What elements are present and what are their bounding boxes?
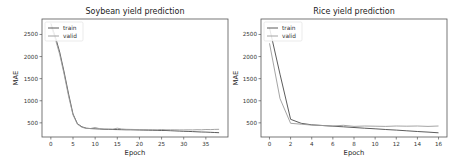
y-tick-label: 2500 (24, 31, 39, 37)
y-tick-label: 1500 (24, 76, 39, 82)
y-axis-label: MAE (12, 71, 20, 86)
x-tick-label: 4 (310, 141, 314, 147)
x-axis-label: Epoch (125, 149, 146, 157)
x-tick-label: 25 (158, 141, 166, 147)
y-tick-label: 1500 (243, 76, 258, 82)
x-tick-label: 14 (414, 141, 422, 147)
x-tick-label: 8 (352, 141, 356, 147)
x-tick-label: 6 (331, 141, 335, 147)
legend-label-train: train (282, 25, 296, 31)
chart-title: Rice yield prediction (313, 7, 395, 16)
x-tick-label: 0 (268, 141, 272, 147)
chart-canvas: Soybean yield prediction 05101520253035 … (0, 0, 462, 166)
x-tick-label: 10 (92, 141, 100, 147)
y-axis-label: MAE (232, 71, 240, 86)
y-tick-label: 500 (246, 120, 257, 126)
legend-label-train: train (63, 25, 77, 31)
legend-label-valid: valid (282, 33, 296, 39)
rice-chart-panel: Rice yield prediction 0246810121416 5001… (232, 7, 447, 157)
x-tick-label: 5 (71, 141, 75, 147)
y-tick-label: 1000 (243, 98, 258, 104)
series-lines (270, 28, 439, 133)
x-tick-label: 15 (114, 141, 122, 147)
x-tick-label: 16 (435, 141, 443, 147)
x-tick-label: 10 (372, 141, 380, 147)
y-tick-label: 2000 (24, 54, 39, 60)
y-tick-label: 1000 (24, 98, 39, 104)
x-axis-ticks: 05101520253035 (49, 137, 210, 147)
legend: trainvalid (45, 22, 83, 41)
x-tick-label: 0 (49, 141, 53, 147)
legend: trainvalid (264, 22, 302, 41)
x-tick-label: 2 (289, 141, 293, 147)
x-tick-label: 20 (136, 141, 144, 147)
y-axis-ticks: 5001000150020002500 (24, 31, 42, 125)
soybean-chart-panel: Soybean yield prediction 05101520253035 … (12, 7, 228, 157)
x-axis-label: Epoch (344, 149, 365, 157)
x-tick-label: 12 (393, 141, 400, 147)
series-line-valid (270, 43, 439, 126)
series-line-train (270, 28, 439, 133)
x-tick-label: 30 (180, 141, 188, 147)
y-tick-label: 2500 (243, 31, 258, 37)
y-tick-label: 2000 (243, 54, 258, 60)
y-tick-label: 500 (27, 120, 38, 126)
x-axis-ticks: 0246810121416 (268, 137, 443, 147)
chart-title: Soybean yield prediction (85, 7, 184, 16)
x-tick-label: 35 (202, 141, 210, 147)
y-axis-ticks: 5001000150020002500 (243, 31, 261, 125)
legend-label-valid: valid (63, 33, 77, 39)
